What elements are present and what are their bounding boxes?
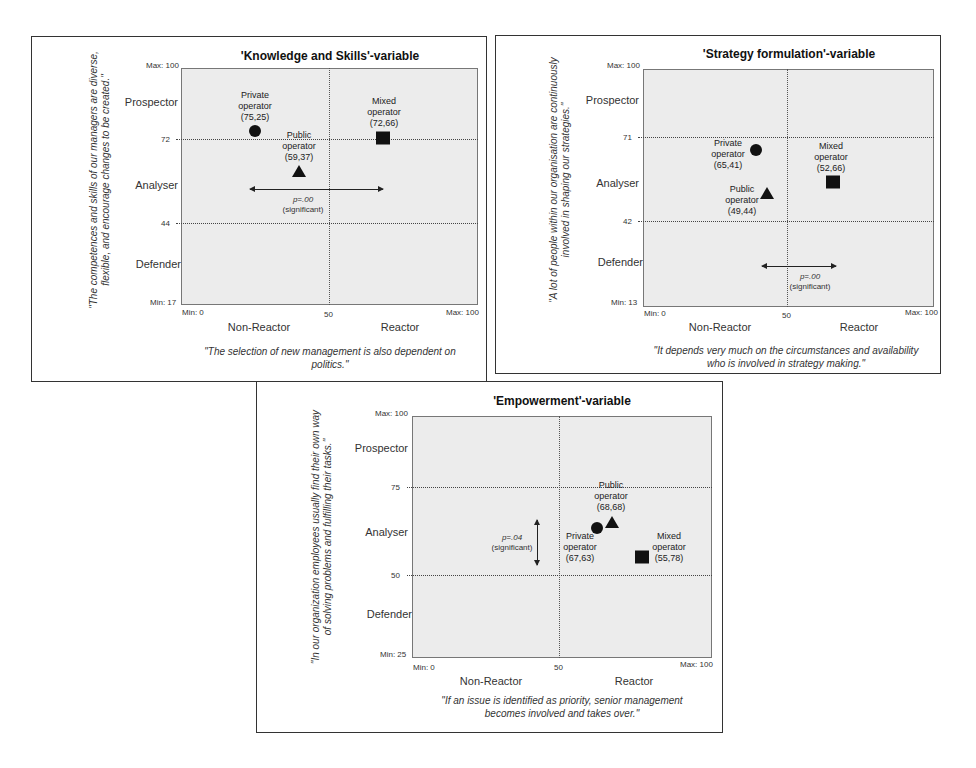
y-category-prospector: Prospector [355,442,408,454]
significance-arrow [250,189,383,190]
x-mid-label: 50 [324,310,333,319]
x-category-reactor: Reactor [381,321,420,333]
y-threshold-upper-label: 72 [161,135,170,144]
y-category-analyser: Analyser [365,526,408,538]
y-category-analyser: Analyser [596,177,639,189]
x-category-non-reactor: Non-Reactor [689,321,751,333]
mixed-operator-marker [635,551,649,564]
midline-x [329,68,330,305]
threshold-line-upper [407,487,712,488]
y-category-prospector: Prospector [586,94,639,106]
private-operator-marker [249,125,261,137]
y-threshold-upper-label: 75 [391,483,400,492]
point-label-public: Public operator (59,37) [282,130,316,163]
x-category-non-reactor: Non-Reactor [460,675,522,687]
chart-title: 'Empowerment'-variable [493,394,631,408]
y-min-label: Min: 13 [611,298,637,307]
point-label-private: Private operator (75,25) [238,90,272,123]
plot-area [643,69,934,307]
y-threshold-lower-label: 50 [391,571,400,580]
public-operator-marker [760,187,774,199]
y-quote: "The competences and skills of our manag… [88,50,112,310]
chart-title: 'Strategy formulation'-variable [703,47,875,61]
y-threshold-lower-label: 42 [623,217,632,226]
significance-label: p=.00 (significant) [283,195,324,215]
y-category-defender: Defender [367,608,412,620]
midline-x [787,69,788,307]
x-category-reactor: Reactor [840,321,879,333]
chart-title: 'Knowledge and Skills'-variable [241,49,419,63]
threshold-line-lower [407,575,712,576]
x-quote: "If an issue is identified as priority, … [402,694,722,720]
y-threshold-lower-label: 44 [161,219,170,228]
y-quote: "A lot of people within our organisation… [548,50,572,310]
point-label-mixed: Mixed operator (55,78) [652,531,686,564]
x-quote: "The selection of new management is also… [180,345,480,371]
y-max-label: Max: 100 [607,61,640,70]
threshold-line-lower [638,221,934,222]
x-max-label: Max: 100 [680,660,713,669]
public-operator-marker [292,165,306,177]
x-category-reactor: Reactor [615,675,654,687]
significance-label: p=.00 (significant) [790,272,831,292]
mixed-operator-marker [826,176,840,189]
x-min-label: Min: 0 [182,308,204,317]
x-mid-label: 50 [554,663,563,672]
y-threshold-upper-label: 71 [623,133,632,142]
private-operator-marker [750,144,762,156]
mixed-operator-marker [376,132,390,145]
significance-arrow [537,520,538,565]
threshold-line-upper [176,139,478,140]
threshold-line-lower [176,223,478,224]
point-label-public: Public operator (49,44) [725,184,759,217]
midline-x [559,416,560,658]
private-operator-marker [591,522,603,534]
y-category-prospector: Prospector [125,96,178,108]
point-label-mixed: Mixed operator (52,66) [814,141,848,174]
y-quote: "In our organization employees usually f… [310,407,334,667]
y-min-label: Min: 17 [150,298,176,307]
y-category-analyser: Analyser [135,179,178,191]
point-label-mixed: Mixed operator (72,66) [367,96,401,129]
x-min-label: Min: 0 [413,663,435,672]
x-mid-label: 50 [782,311,791,320]
point-label-private: Private operator (65,41) [711,138,745,171]
x-max-label: Max: 100 [905,308,938,317]
threshold-line-upper [638,137,934,138]
significance-arrow [762,266,836,267]
y-max-label: Max: 100 [375,409,408,418]
y-max-label: Max: 100 [146,61,179,70]
public-operator-marker [605,516,619,528]
point-label-public: Public operator (68,68) [594,480,628,513]
y-min-label: Min: 25 [380,650,406,659]
point-label-private: Private operator (67,63) [563,531,597,564]
x-min-label: Min: 0 [644,309,666,318]
x-max-label: Max: 100 [446,308,479,317]
y-category-defender: Defender [136,258,181,270]
significance-label: p=.04 (significant) [492,533,533,553]
y-category-defender: Defender [598,256,643,268]
x-category-non-reactor: Non-Reactor [228,321,290,333]
x-quote: "It depends very much on the circumstanc… [626,344,946,370]
